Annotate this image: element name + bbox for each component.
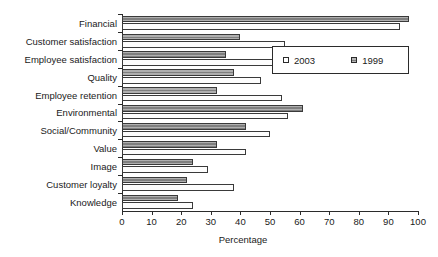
open-square-marker-icon: [283, 57, 289, 63]
bar-2003: [122, 184, 234, 191]
x-axis-tick: [388, 211, 389, 215]
x-axis-tick: [300, 211, 301, 215]
legend-label: 1999: [362, 55, 383, 66]
y-axis-tick-label: Customer loyalty: [46, 179, 117, 190]
legend-label: 2003: [294, 55, 315, 66]
bar-1999: [122, 34, 240, 41]
category-row: Social/Community: [122, 121, 418, 139]
x-axis-tick: [418, 211, 419, 215]
category-row: Environmental: [122, 104, 418, 122]
x-axis-tick: [122, 211, 123, 215]
x-axis-tick-label: 20: [176, 216, 187, 227]
bar-1999: [122, 159, 193, 166]
bar-2003: [122, 95, 282, 102]
bar-2003: [122, 59, 282, 66]
bar-2003: [122, 202, 193, 209]
x-axis-tick: [240, 211, 241, 215]
y-axis-tick-label: Image: [91, 161, 117, 172]
x-axis-tick-label: 40: [235, 216, 246, 227]
legend-item-2003: 2003: [283, 55, 315, 66]
x-axis-tick-label: 100: [410, 216, 426, 227]
x-axis-tick-label: 10: [146, 216, 157, 227]
bar-1999: [122, 87, 217, 94]
bar-chart: FinancialCustomer satisfactionEmployee s…: [0, 0, 438, 257]
bar-1999: [122, 16, 409, 23]
category-row: Knowledge: [122, 193, 418, 211]
y-axis-tick-label: Customer satisfaction: [26, 35, 117, 46]
y-axis-tick-label: Quality: [87, 71, 117, 82]
y-axis-tick-label: Social/Community: [40, 125, 117, 136]
plot-area: FinancialCustomer satisfactionEmployee s…: [122, 14, 418, 211]
x-axis-tick-label: 70: [324, 216, 335, 227]
category-row: Employee retention: [122, 86, 418, 104]
bar-2003: [122, 41, 285, 48]
y-axis-tick-label: Knowledge: [70, 197, 117, 208]
x-axis-tick-label: 30: [206, 216, 217, 227]
y-axis-tick-label: Environmental: [56, 107, 117, 118]
bar-2003: [122, 166, 208, 173]
x-axis-tick: [181, 211, 182, 215]
bar-1999: [122, 69, 234, 76]
x-axis-tick: [152, 211, 153, 215]
category-row: Image: [122, 157, 418, 175]
x-axis-tick-label: 50: [265, 216, 276, 227]
bar-1999: [122, 105, 303, 112]
x-axis-tick: [359, 211, 360, 215]
bar-1999: [122, 123, 246, 130]
x-axis-tick-label: 80: [354, 216, 365, 227]
x-axis-tick: [329, 211, 330, 215]
category-row: Value: [122, 139, 418, 157]
x-axis-tick-label: 0: [119, 216, 124, 227]
bar-1999: [122, 195, 178, 202]
bar-2003: [122, 131, 270, 138]
x-axis-tick-label: 90: [383, 216, 394, 227]
hatched-square-marker-icon: [351, 57, 357, 63]
y-axis-tick-label: Employee retention: [35, 89, 117, 100]
x-axis-tick: [270, 211, 271, 215]
x-axis-title: Percentage: [0, 234, 438, 245]
bar-1999: [122, 177, 187, 184]
bar-1999: [122, 51, 226, 58]
bar-2003: [122, 113, 288, 120]
bar-1999: [122, 141, 217, 148]
bar-2003: [122, 23, 400, 30]
x-axis-tick-label: 60: [294, 216, 305, 227]
y-axis-tick-label: Financial: [79, 17, 117, 28]
bar-2003: [122, 149, 246, 156]
bar-2003: [122, 77, 261, 84]
category-row: Customer loyalty: [122, 175, 418, 193]
x-axis-tick: [211, 211, 212, 215]
chart-legend: 20031999: [272, 46, 409, 74]
legend-item-1999: 1999: [351, 55, 383, 66]
category-row: Financial: [122, 14, 418, 32]
y-axis-tick-label: Value: [93, 143, 117, 154]
y-axis-tick-label: Employee satisfaction: [25, 53, 117, 64]
